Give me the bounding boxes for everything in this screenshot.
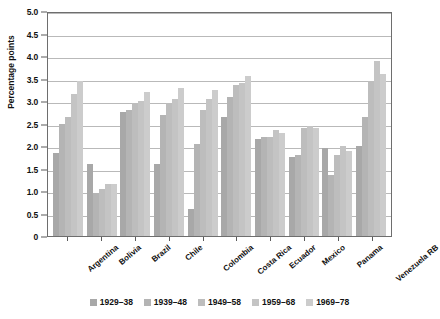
- x-tick-label: Mexico: [321, 243, 348, 267]
- x-tick-mark: [338, 237, 339, 241]
- bar: [279, 133, 285, 237]
- x-tick-mark: [236, 237, 237, 241]
- y-tick-label: 5.0: [27, 7, 38, 17]
- y-tick-label: 4.0: [27, 52, 38, 62]
- legend-item[interactable]: 1939–48: [144, 297, 187, 307]
- bar: [144, 92, 150, 236]
- legend-swatch-icon: [306, 299, 313, 306]
- legend-swatch-icon: [198, 299, 205, 306]
- bar-group: [87, 13, 117, 236]
- x-tick-label: Venezuela RB: [394, 243, 440, 284]
- y-tick-label: 0: [33, 232, 38, 242]
- y-tick-label: 2.5: [27, 120, 38, 130]
- legend-label: 1929–38: [100, 297, 133, 307]
- bar-group: [356, 13, 386, 236]
- y-tick-label: 4.5: [27, 30, 38, 40]
- legend-item[interactable]: 1959–68: [252, 297, 295, 307]
- bar-group: [53, 13, 83, 236]
- y-tick-label: 3.5: [27, 75, 38, 85]
- x-tick-label: Brazil: [150, 243, 172, 264]
- x-tick-mark: [67, 237, 68, 241]
- x-tick-mark: [270, 237, 271, 241]
- legend-swatch-icon: [252, 299, 259, 306]
- y-axis: Percentage points 00.51.01.52.02.53.03.5…: [0, 12, 47, 237]
- bar: [77, 81, 83, 236]
- x-tick-label: Colombia: [221, 243, 255, 273]
- plot-frame: [47, 12, 392, 237]
- y-tick-label: 2.0: [27, 142, 38, 152]
- bar: [346, 151, 352, 237]
- bar: [178, 88, 184, 237]
- x-tick-mark: [169, 237, 170, 241]
- bar-group: [154, 13, 184, 236]
- bar-group: [120, 13, 150, 236]
- y-axis-title: Percentage points: [6, 0, 16, 167]
- x-tick-mark: [203, 237, 204, 241]
- y-tick-label: 1.5: [27, 165, 38, 175]
- legend-item[interactable]: 1929–38: [90, 297, 133, 307]
- legend-label: 1939–48: [154, 297, 187, 307]
- bar: [380, 74, 386, 236]
- x-tick-mark: [101, 237, 102, 241]
- bar-group: [255, 13, 285, 236]
- x-tick-label: Ecuador: [288, 243, 318, 270]
- x-tick-label: Chile: [183, 243, 204, 262]
- x-axis: ArgentinaBoliviaBrazilChileColombiaCosta…: [47, 237, 392, 293]
- legend-item[interactable]: 1969–78: [306, 297, 349, 307]
- x-tick-label: Costa Rica: [256, 243, 293, 276]
- y-tick-label: 0.5: [27, 210, 38, 220]
- x-tick-label: Panama: [355, 243, 384, 270]
- legend-label: 1949–58: [208, 297, 241, 307]
- legend-swatch-icon: [90, 299, 97, 306]
- bar-group: [188, 13, 218, 236]
- x-tick-mark: [135, 237, 136, 241]
- bar: [212, 90, 218, 236]
- bar-group: [322, 13, 352, 236]
- legend-item[interactable]: 1949–58: [198, 297, 241, 307]
- bar: [111, 184, 117, 236]
- bar: [245, 76, 251, 236]
- x-tick-mark: [372, 237, 373, 241]
- x-tick-mark: [304, 237, 305, 241]
- legend-swatch-icon: [144, 299, 151, 306]
- x-tick-label: Bolivia: [117, 243, 143, 267]
- bar-group: [289, 13, 319, 236]
- y-tick-label: 3.0: [27, 97, 38, 107]
- bar: [313, 128, 319, 236]
- bar-plot-area: [48, 13, 391, 236]
- x-tick-label: Argentina: [86, 243, 120, 274]
- legend-label: 1959–68: [262, 297, 295, 307]
- legend-label: 1969–78: [316, 297, 349, 307]
- bar-group: [221, 13, 251, 236]
- y-tick-label: 1.0: [27, 187, 38, 197]
- chart-legend: 1929–381939–481949–581959–681969–78: [47, 297, 392, 307]
